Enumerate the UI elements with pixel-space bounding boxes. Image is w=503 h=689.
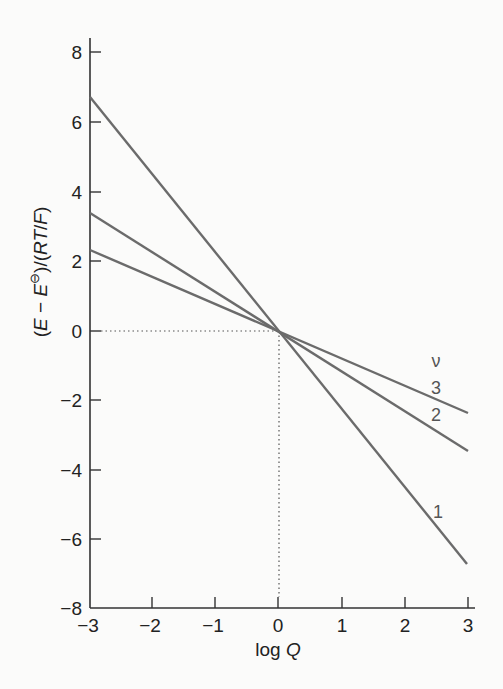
svg-text:1: 1 [337,615,348,636]
svg-text:0: 0 [71,321,82,342]
y-axis-title: (E − E⊖)/(RT/F) [27,207,51,338]
svg-text:−1: −1 [202,615,224,636]
svg-text:−2: −2 [60,390,82,411]
y-ticks [90,52,101,539]
x-tick-labels: −3 −2 −1 0 1 2 3 [77,615,473,636]
svg-text:−6: −6 [60,529,82,550]
series-label-3: 3 [431,378,441,398]
series-label-1: 1 [433,502,443,522]
svg-text:3: 3 [463,615,474,636]
svg-text:6: 6 [71,112,82,133]
x-ticks [152,597,468,608]
svg-text:4: 4 [71,182,82,203]
svg-text:2: 2 [400,615,411,636]
y-tick-labels: 8 6 4 2 0 −2 −4 −6 −8 [60,42,82,619]
legend-title-nu: ν [432,351,441,371]
svg-text:−2: −2 [139,615,161,636]
svg-text:−4: −4 [60,460,82,481]
series-label-2: 2 [431,405,441,425]
svg-text:2: 2 [71,251,82,272]
svg-text:0: 0 [273,615,284,636]
svg-text:−3: −3 [77,615,99,636]
svg-text:8: 8 [71,42,82,63]
x-axis-title: log Q [255,639,301,660]
chart-canvas: 8 6 4 2 0 −2 −4 −6 −8 −3 −2 −1 0 1 2 3 ν… [0,0,503,689]
